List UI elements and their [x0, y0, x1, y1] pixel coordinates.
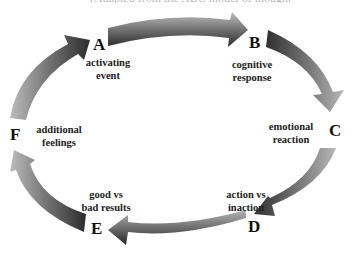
node-label-f: additional feelings — [30, 123, 88, 149]
arrow-d-to-e — [108, 210, 246, 245]
node-label-a-line2: event — [80, 69, 136, 82]
node-label-b-line2: response — [224, 71, 280, 84]
node-label-f-line2: feelings — [30, 136, 88, 149]
node-letter-d: D — [248, 218, 260, 235]
arrow-e-to-f — [10, 150, 86, 232]
node-label-c: emotional reaction — [262, 120, 320, 146]
arrow-f-to-a — [10, 35, 90, 120]
node-letter-c: C — [329, 122, 341, 139]
node-label-d-line1: action vs — [218, 188, 274, 201]
node-label-c-line1: emotional — [262, 120, 320, 133]
node-label-d-line2: inaction — [218, 201, 274, 214]
node-label-c-line2: reaction — [262, 133, 320, 146]
node-letter-e: E — [91, 220, 102, 237]
node-label-a: activating event — [80, 56, 136, 82]
arrow-a-to-b — [108, 12, 248, 47]
node-letter-a: A — [93, 36, 105, 53]
node-label-f-line1: additional — [30, 123, 88, 136]
node-label-d: action vs inaction — [218, 188, 274, 214]
node-label-b: cognitive response — [224, 58, 280, 84]
node-label-e: good vs bad results — [76, 188, 136, 214]
node-letter-f: F — [10, 126, 20, 143]
node-label-a-line1: activating — [80, 56, 136, 69]
node-label-e-line1: good vs — [76, 188, 136, 201]
node-label-e-line2: bad results — [76, 201, 136, 214]
node-letter-b: B — [249, 34, 260, 51]
node-label-b-line1: cognitive — [224, 58, 280, 71]
